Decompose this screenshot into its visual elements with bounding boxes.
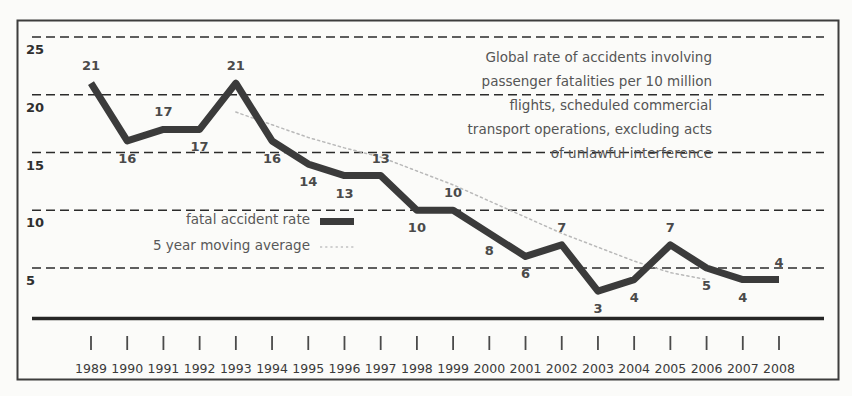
x-tick-label-1999: 1999 [437, 361, 469, 376]
x-tick-label-2005: 2005 [654, 361, 686, 376]
y-tick-label-25: 25 [26, 42, 44, 57]
data-label-2002: 7 [557, 220, 566, 235]
x-tick-label-1998: 1998 [401, 361, 433, 376]
x-tick-label-2001: 2001 [510, 361, 542, 376]
x-tick-label-1990: 1990 [111, 361, 143, 376]
data-label-2006: 5 [702, 278, 711, 293]
x-tick-label-1989: 1989 [75, 361, 107, 376]
data-label-1997: 13 [372, 151, 390, 166]
data-label-1994: 16 [263, 151, 281, 166]
data-label-1991: 17 [154, 104, 172, 119]
x-tick-label-2000: 2000 [473, 361, 505, 376]
caption-line-2: passenger fatalities per 10 million [482, 73, 712, 89]
x-tick-label-1993: 1993 [220, 361, 252, 376]
data-label-1998: 10 [408, 220, 426, 235]
x-tick-label-1997: 1997 [365, 361, 397, 376]
x-tick-label-2006: 2006 [691, 361, 723, 376]
y-tick-label-5: 5 [26, 273, 35, 288]
chart-figure: 252015105 198919901991199219931994199519… [0, 0, 852, 396]
x-tick-label-1992: 1992 [184, 361, 216, 376]
y-tick-label-15: 15 [26, 158, 44, 173]
data-label-2008: 4 [774, 255, 783, 270]
data-label-2003: 3 [593, 301, 602, 316]
caption-line-5: of unlawful interference [551, 145, 712, 161]
x-tick-label-1995: 1995 [292, 361, 324, 376]
caption-line-1: Global rate of accidents involving [486, 49, 712, 65]
data-label-2001: 6 [521, 266, 530, 281]
x-tick-label-1994: 1994 [256, 361, 288, 376]
data-label-2004: 4 [630, 290, 639, 305]
legend-label-fatal-accident-rate: fatal accident rate [186, 211, 310, 227]
data-label-2000: 8 [485, 243, 494, 258]
y-tick-label-10: 10 [26, 215, 44, 230]
accident-rate-line-chart: 252015105 198919901991199219931994199519… [0, 0, 852, 396]
x-tick-label-1991: 1991 [148, 361, 180, 376]
data-label-1996: 13 [335, 186, 353, 201]
x-tick-label-2004: 2004 [618, 361, 650, 376]
legend-label-5-year-moving-average: 5 year moving average [153, 237, 310, 253]
x-tick-label-2003: 2003 [582, 361, 614, 376]
data-label-2005: 7 [666, 220, 675, 235]
x-tick-label-2008: 2008 [763, 361, 795, 376]
caption-line-4: transport operations, excluding acts [468, 121, 712, 137]
data-label-1999: 10 [444, 185, 462, 200]
caption-line-3: flights, scheduled commercial [510, 97, 712, 113]
x-tick-label-2002: 2002 [546, 361, 578, 376]
y-tick-label-20: 20 [26, 100, 44, 115]
data-label-1990: 16 [118, 151, 136, 166]
legend-marker-thick-bar [320, 218, 354, 225]
data-label-1993: 21 [227, 58, 245, 73]
data-label-1995: 14 [299, 174, 317, 189]
data-label-2007: 4 [738, 290, 747, 305]
data-label-1989: 21 [82, 58, 100, 73]
data-label-1992: 17 [191, 139, 209, 154]
x-tick-label-1996: 1996 [329, 361, 361, 376]
x-tick-label-2007: 2007 [727, 361, 759, 376]
